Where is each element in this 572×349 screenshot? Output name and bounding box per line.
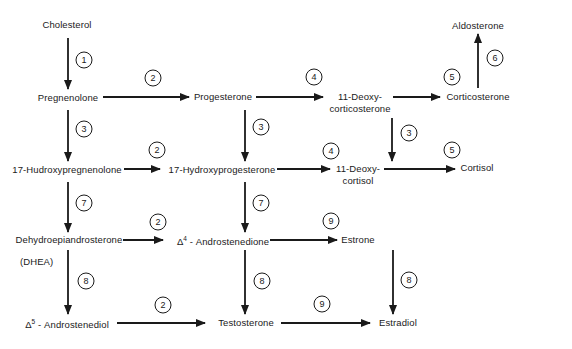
step-3-badge: 3 [253, 119, 270, 136]
steroidogenesis-pathway-diagram: Cholesterol Pregnenolone Progesterone 11… [0, 0, 572, 349]
node-cortisol: Cortisol [460, 162, 493, 174]
step-1-badge: 1 [76, 52, 93, 69]
node-pregnenolone: Pregnenolone [38, 92, 98, 104]
node-17-hydroxypregnenolone: 17-Hudroxypregnenolone [12, 164, 121, 176]
step-5-badge: 5 [444, 142, 461, 159]
step-4-badge: 4 [306, 69, 323, 86]
androstenedione-label: - Androstenedione [187, 236, 269, 247]
node-estrone: Estrone [341, 234, 374, 246]
node-aldosterone: Aldosterone [452, 20, 504, 32]
node-estradiol: Estradiol [379, 317, 417, 329]
node-androstenediol: Δ5 - Androstenediol [25, 316, 109, 331]
node-dhea: Dehydroepiandrosterone [16, 234, 123, 246]
node-17-hydroxyprogesterone: 17-Hydroxyprogesterone [169, 164, 276, 176]
step-5-badge: 5 [444, 69, 461, 86]
step-2-badge: 2 [145, 70, 162, 87]
node-androstenedione: Δ4 - Androstenedione [177, 233, 269, 248]
step-8-badge: 8 [401, 272, 418, 289]
node-11-deoxycortisol-line1: 11-Deoxy- [336, 163, 380, 175]
androstenediol-label: - Androstenediol [35, 319, 109, 330]
step-3-badge: 3 [401, 125, 418, 142]
step-8-badge: 8 [78, 273, 95, 290]
step-9-badge: 9 [323, 213, 340, 230]
node-testosterone: Testosterone [218, 317, 274, 329]
node-11-deoxycorticosterone-line1: 11-Deoxy- [338, 91, 382, 103]
node-corticosterone: Corticosterone [446, 91, 509, 103]
node-11-deoxycortisol-line2: cortisol [343, 175, 374, 187]
step-7-badge: 7 [253, 195, 270, 212]
node-progesterone: Progesterone [194, 91, 252, 103]
step-2-badge: 2 [150, 214, 167, 231]
step-2-badge: 2 [155, 297, 172, 314]
step-9-badge: 9 [314, 296, 331, 313]
step-3-badge: 3 [76, 121, 93, 138]
step-8-badge: 8 [254, 273, 271, 290]
step-7-badge: 7 [76, 195, 93, 212]
node-cholesterol: Cholesterol [42, 19, 91, 31]
step-2-badge: 2 [149, 142, 166, 159]
step-6-badge: 6 [487, 50, 504, 67]
node-dhea-abbrev: (DHEA) [20, 256, 53, 268]
node-11-deoxycorticosterone-line2: corticosterone [329, 103, 390, 115]
step-4-badge: 4 [323, 143, 340, 160]
